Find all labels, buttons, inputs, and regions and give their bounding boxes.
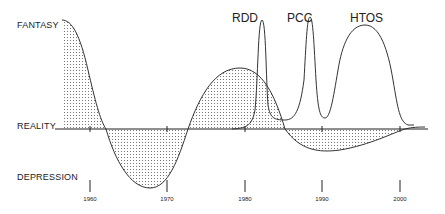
- year-1980-label: 1980: [238, 196, 251, 202]
- depression-label: DEPRESSION: [17, 172, 78, 182]
- htos-label: HTOS: [350, 11, 383, 25]
- shaded-cycle-area: [62, 20, 405, 188]
- fantasy-label: FANTASY: [17, 20, 59, 30]
- pcc-label: PCC: [287, 11, 312, 25]
- year-1970-label: 1970: [160, 196, 173, 202]
- year-1960-label: 1960: [83, 196, 96, 202]
- reality-label: REALITY: [17, 121, 56, 131]
- year-2000-label: 2000: [393, 196, 406, 202]
- rdd-label: RDD: [232, 11, 258, 25]
- year-1990-label: 1990: [315, 196, 328, 202]
